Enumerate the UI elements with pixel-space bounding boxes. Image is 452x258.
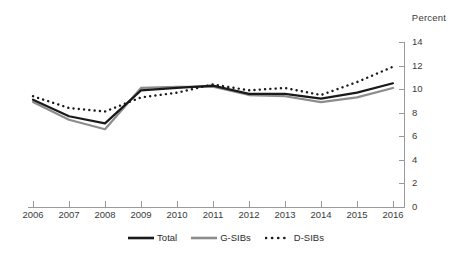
x-axis-tick [357, 201, 358, 207]
series-line-gsibs [33, 87, 393, 129]
series-line-dsibs [33, 67, 393, 112]
x-axis-tick [177, 201, 178, 207]
y-axis-tick [399, 42, 405, 43]
y-axis-tick-label: 12 [412, 61, 423, 71]
y-axis-tick-label: 4 [412, 155, 417, 165]
x-axis-tick [33, 201, 34, 207]
dotted-black-line-icon [265, 233, 291, 243]
y-axis-tick-label: 10 [412, 84, 423, 94]
x-axis-tick-label: 2011 [203, 210, 223, 220]
legend-label-total: Total [157, 233, 177, 243]
x-axis-tick-label: 2014 [310, 210, 331, 220]
chart-legend: Total G-SIBs D-SIBs [0, 233, 452, 243]
x-axis-tick-label: 2008 [94, 210, 115, 220]
x-axis-tick [141, 201, 142, 207]
x-axis-tick-label: 2012 [238, 210, 259, 220]
x-axis-tick [321, 201, 322, 207]
solid-black-line-icon [128, 233, 154, 243]
x-axis-tick [393, 201, 394, 207]
x-axis-tick-label: 2015 [346, 210, 367, 220]
x-axis-tick [285, 201, 286, 207]
x-axis-tick [249, 201, 250, 207]
y-axis-tick [399, 160, 405, 161]
x-axis-tick-label: 2007 [58, 210, 79, 220]
y-axis-tick [399, 89, 405, 90]
x-axis-line [28, 207, 405, 208]
x-axis-tick-label: 2016 [382, 210, 403, 220]
x-axis-tick-label: 2010 [166, 210, 187, 220]
y-axis-tick-label: 2 [412, 179, 417, 189]
y-axis-tick [399, 66, 405, 67]
y-axis-tick-label: 6 [412, 132, 417, 142]
y-axis-tick-label: 0 [412, 202, 417, 212]
plot-area [33, 42, 393, 207]
y-axis-tick [399, 136, 405, 137]
x-axis-tick-label: 2006 [22, 210, 43, 220]
y-axis-tick-label: 14 [412, 37, 423, 47]
x-axis-tick [213, 201, 214, 207]
y-axis-tick [399, 113, 405, 114]
series-line-total [33, 83, 393, 123]
x-axis-tick [69, 201, 70, 207]
solid-gray-line-icon [191, 233, 217, 243]
x-axis-tick [105, 201, 106, 207]
x-axis-tick-label: 2009 [130, 210, 151, 220]
line-chart: Percent 02468101214 20062007200820092010… [0, 0, 452, 258]
legend-item-dsibs: D-SIBs [265, 233, 324, 243]
y-axis-tick-label: 8 [412, 108, 417, 118]
y-axis-tick [399, 183, 405, 184]
y-axis-unit-label: Percent [412, 12, 446, 23]
x-axis-tick-label: 2013 [274, 210, 295, 220]
series-layer [33, 42, 393, 207]
legend-item-gsibs: G-SIBs [191, 233, 251, 243]
legend-item-total: Total [128, 233, 177, 243]
legend-label-gsibs: G-SIBs [220, 233, 251, 243]
legend-label-dsibs: D-SIBs [294, 233, 324, 243]
